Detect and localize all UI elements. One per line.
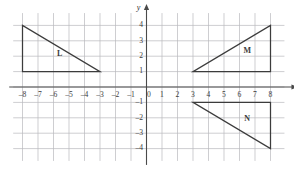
x-tick-label: –2 [111,90,120,99]
y-tick-label: –1 [134,97,143,106]
shape-label-m: M [243,46,251,55]
coordinate-plane-svg: –8–7–6–5–4–3–2–10123456784321–1–2–3–4 xy… [0,0,294,169]
x-tick-label: –3 [95,90,104,99]
x-tick-label: –5 [64,90,73,99]
y-tick-label: –4 [134,143,143,152]
x-tick-label: 0 [147,90,151,99]
axis-layer [9,4,294,165]
x-tick-label: –1 [126,90,135,99]
coordinate-grid-figure: –8–7–6–5–4–3–2–10123456784321–1–2–3–4 xy… [0,0,294,169]
y-axis-label: y [136,3,141,12]
x-tick-label: 5 [222,90,226,99]
y-tick-label: 3 [139,36,143,45]
shape-label-n: N [244,114,250,123]
x-tick-label: –4 [80,90,89,99]
x-tick-label: 2 [176,90,180,99]
tick-label-layer: –8–7–6–5–4–3–2–10123456784321–1–2–3–4 [18,20,273,152]
shape-label-layer: LMN [57,46,251,123]
x-axis-arrow [291,84,294,89]
x-tick-label: 3 [191,90,195,99]
x-tick-label: 4 [207,90,211,99]
x-tick-label: –7 [33,90,42,99]
y-tick-label: –3 [134,128,143,137]
x-tick-label: 1 [160,90,164,99]
shape-label-l: L [57,49,62,58]
x-tick-label: –6 [49,90,58,99]
y-tick-label: 4 [139,20,143,29]
x-tick-label: 7 [253,90,257,99]
x-tick-label: 6 [238,90,242,99]
x-tick-label: 8 [269,90,273,99]
y-tick-label: –2 [134,113,143,122]
triangle-n [193,102,271,148]
triangle-m [193,25,271,71]
y-axis-arrow [144,4,149,10]
y-tick-label: 1 [139,66,143,75]
y-tick-label: 2 [139,51,143,60]
x-tick-label: –8 [18,90,27,99]
